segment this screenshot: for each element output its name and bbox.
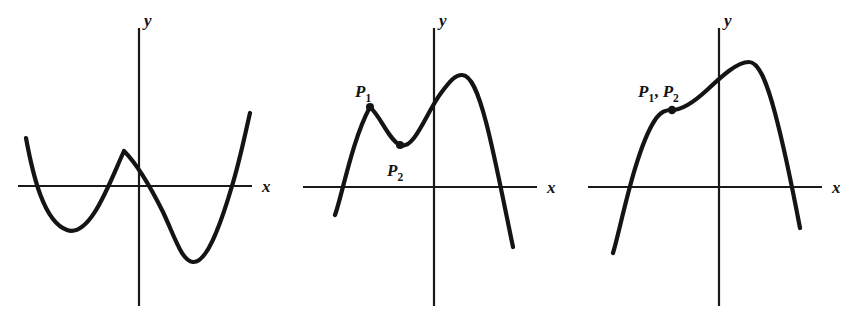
x-axis-label: x [831,178,841,197]
y-axis-label: y [142,11,152,30]
x-axis-label: x [261,177,271,196]
point-label-p1-p2-base-two: P [662,82,674,101]
point-label-p2-base: P [386,161,398,180]
point-label-p2-subscript: 2 [397,171,403,183]
figure-three-polynomial-graphs: x y P1 P2 x y P1, P2 x y [0,0,850,334]
y-axis-label: y [437,11,447,30]
point-label-p1: P1 [354,82,371,104]
point-label-p1-p2-base-one: P [637,82,649,101]
point-marker-p2 [396,141,404,149]
point-label-p1-p2-separator: , [654,82,663,101]
point-label-p1-p2-subscript-two: 2 [673,92,679,104]
y-axis-label: y [722,11,732,30]
panel-one: x y [0,0,283,334]
point-marker-p1-p2 [668,106,676,114]
panel-two: P1 P2 x y [283,0,566,334]
point-label-p1-p2: P1, P2 [637,82,679,104]
point-label-p2: P2 [386,161,403,183]
point-label-p1-subscript: 1 [365,92,371,104]
point-label-p1-base: P [354,82,366,101]
panel-three: P1, P2 x y [566,0,850,334]
point-marker-p1 [366,103,374,111]
x-axis-label: x [546,178,556,197]
